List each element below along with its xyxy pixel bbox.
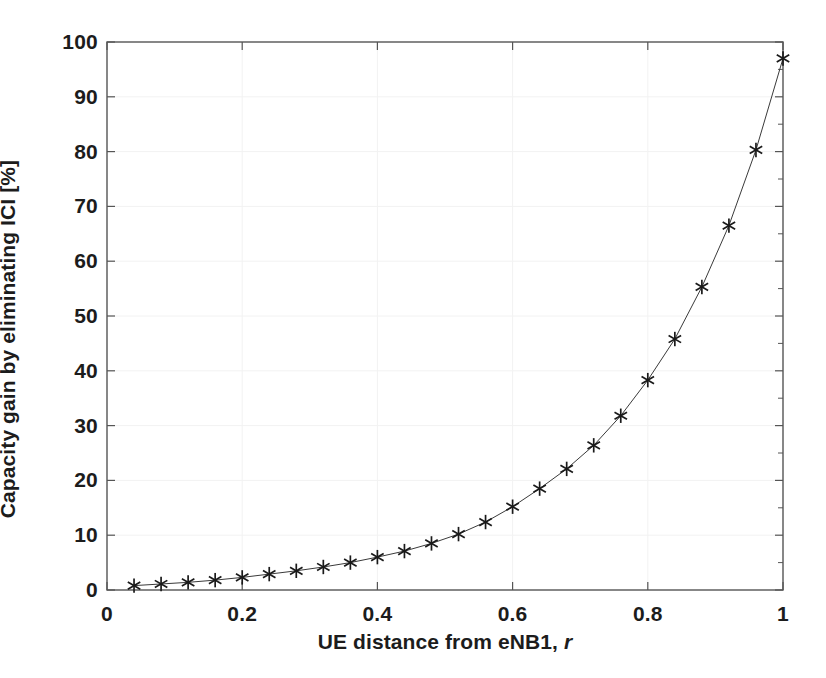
y-axis-tick-label: 100 bbox=[62, 30, 98, 54]
data-point-marker bbox=[398, 544, 410, 558]
y-axis-tick-label: 30 bbox=[74, 414, 98, 438]
chart-figure: Capacity gain by eliminating ICI [%] UE … bbox=[0, 0, 826, 678]
data-point-marker bbox=[425, 536, 437, 550]
x-axis-tick-label: 0.4 bbox=[362, 602, 392, 626]
data-point-marker bbox=[723, 218, 735, 232]
data-markers bbox=[128, 51, 789, 593]
y-axis-tick-label: 0 bbox=[86, 578, 98, 602]
data-point-marker bbox=[263, 567, 275, 581]
data-point-marker bbox=[533, 481, 545, 495]
data-point-marker bbox=[750, 143, 762, 157]
y-axis-tick-label: 70 bbox=[74, 194, 98, 218]
data-point-marker bbox=[290, 564, 302, 578]
data-point-marker bbox=[560, 462, 572, 476]
data-point-marker bbox=[479, 515, 491, 529]
gridlines bbox=[107, 42, 783, 590]
y-axis-tick-label: 50 bbox=[74, 304, 98, 328]
y-axis-tick-label: 10 bbox=[74, 523, 98, 547]
data-point-marker bbox=[371, 550, 383, 564]
x-axis-label-variable: r bbox=[564, 630, 572, 653]
data-point-marker bbox=[506, 500, 518, 514]
x-axis-label-text: UE distance from eNB1, bbox=[318, 630, 558, 653]
data-point-marker bbox=[777, 51, 789, 65]
x-axis-tick-label: 0.2 bbox=[227, 602, 257, 626]
data-line bbox=[134, 58, 783, 585]
y-axis-label-text: Capacity gain by eliminating ICI [%] bbox=[0, 59, 20, 619]
data-point-marker bbox=[669, 332, 681, 346]
x-axis-label: UE distance from eNB1, r bbox=[318, 630, 572, 654]
x-axis-tick-label: 0 bbox=[101, 602, 113, 626]
data-point-marker bbox=[696, 280, 708, 294]
y-axis-tick-label: 80 bbox=[74, 140, 98, 164]
y-axis-tick-label: 40 bbox=[74, 359, 98, 383]
x-axis-tick-label: 1 bbox=[777, 602, 789, 626]
x-axis-tick-label: 0.8 bbox=[633, 602, 663, 626]
data-point-marker bbox=[452, 527, 464, 541]
y-axis-tick-label: 90 bbox=[74, 85, 98, 109]
y-axis-label: Capacity gain by eliminating ICI [%] bbox=[0, 59, 20, 619]
x-axis-tick-label: 0.6 bbox=[498, 602, 528, 626]
data-point-marker bbox=[344, 555, 356, 569]
y-axis-tick-label: 20 bbox=[74, 468, 98, 492]
data-point-marker bbox=[317, 560, 329, 574]
y-axis-tick-label: 60 bbox=[74, 249, 98, 273]
plot-canvas bbox=[0, 0, 826, 678]
